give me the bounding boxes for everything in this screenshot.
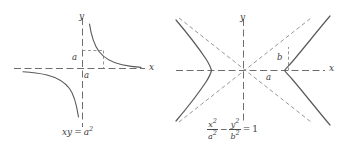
right-eq-term2-numerator: y2 xyxy=(229,118,240,129)
right-eq-equals: = xyxy=(241,124,253,134)
right-eq-rhs: 1 xyxy=(252,124,258,134)
right-eq-term1-denominator: a2 xyxy=(207,129,218,141)
left-param-label-a-on-y-axis: a xyxy=(72,53,77,62)
left-equation: xy=a2 xyxy=(62,126,93,137)
left-x-axis-label: x xyxy=(149,63,154,72)
right-x-axis-label: x xyxy=(329,64,334,73)
left-param-label-a-on-x-axis: a xyxy=(84,71,89,80)
left-y-axis-label: y xyxy=(79,12,84,21)
left-panel-group xyxy=(14,18,145,127)
left-curve-branch-lower-left xyxy=(23,72,79,117)
right-eq-term1-numerator: x2 xyxy=(207,118,218,129)
right-eq-term2-num-exp: 2 xyxy=(235,117,239,125)
right-eq-term2-denominator: b2 xyxy=(229,129,240,141)
right-param-label-b: b xyxy=(277,53,282,62)
left-eq-exponent: 2 xyxy=(89,125,93,133)
right-eq-term1: x2 a2 xyxy=(207,118,218,141)
right-eq-minus: − xyxy=(218,124,230,134)
hyperbola-figure: y x a a xy=a2 y x b a x2 a2 − y2 b2 =1 xyxy=(0,0,342,148)
left-eq-equals: = xyxy=(72,127,84,137)
right-y-axis-label: y xyxy=(240,13,245,22)
right-eq-term2-den-exp: 2 xyxy=(236,129,240,137)
right-panel-group xyxy=(176,16,330,125)
right-equation: x2 a2 − y2 b2 =1 xyxy=(207,118,258,141)
right-eq-term1-num-exp: 2 xyxy=(213,117,217,125)
right-param-label-a: a xyxy=(266,73,271,82)
right-eq-term1-den-exp: 2 xyxy=(213,129,217,137)
left-curve-branch-upper-right xyxy=(90,24,142,67)
figure-canvas xyxy=(0,0,342,148)
right-eq-term2: y2 b2 xyxy=(229,118,240,141)
